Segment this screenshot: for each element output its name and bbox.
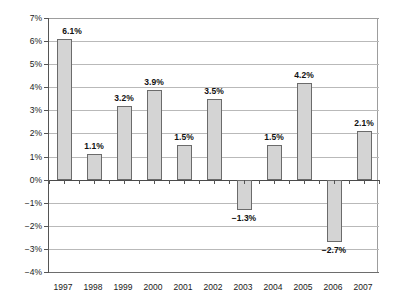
- x-axis-label-1999: 1999: [114, 282, 133, 292]
- bar[interactable]: [267, 145, 282, 180]
- x-axis-tick: [124, 180, 125, 184]
- y-axis-tick: [44, 41, 49, 42]
- y-axis-label: −1%: [25, 198, 42, 208]
- x-axis-label-2001: 2001: [174, 282, 193, 292]
- x-axis-tick: [274, 180, 275, 184]
- bar[interactable]: [237, 180, 252, 210]
- y-axis-tick: [44, 157, 49, 158]
- gridline-7%: [49, 18, 379, 19]
- x-axis-tick: [64, 180, 65, 184]
- bar-value-label: 1.1%: [84, 141, 103, 151]
- bar[interactable]: [297, 83, 312, 180]
- bar-value-label: 2.1%: [354, 118, 373, 128]
- bar-value-label: 1.5%: [264, 132, 283, 142]
- y-axis-tick: [44, 18, 49, 19]
- x-axis-tick: [364, 180, 365, 184]
- x-axis-label-2007: 2007: [354, 282, 373, 292]
- x-axis-label-2004: 2004: [264, 282, 283, 292]
- bar[interactable]: [327, 180, 342, 242]
- bar[interactable]: [87, 154, 102, 179]
- x-axis-label-2005: 2005: [294, 282, 313, 292]
- x-axis-tick: [169, 180, 170, 184]
- x-axis-label-1997: 1997: [54, 282, 73, 292]
- x-axis-tick: [259, 180, 260, 184]
- gridline-5%: [49, 64, 379, 65]
- bar[interactable]: [117, 106, 132, 180]
- x-axis-tick: [379, 180, 380, 184]
- x-axis-tick: [154, 180, 155, 184]
- x-axis-tick: [214, 180, 215, 184]
- y-axis-tick: [44, 203, 49, 204]
- bar[interactable]: [147, 90, 162, 180]
- x-axis-tick: [229, 180, 230, 184]
- bar-value-label: 4.2%: [294, 70, 313, 80]
- bar-value-label: 6.1%: [62, 26, 81, 36]
- bar-value-label: −2.7%: [322, 245, 346, 255]
- x-axis-tick: [184, 180, 185, 184]
- x-axis-tick: [289, 180, 290, 184]
- x-axis-tick: [304, 180, 305, 184]
- bar[interactable]: [177, 145, 192, 180]
- x-axis-tick: [79, 180, 80, 184]
- gridline-6%: [49, 41, 379, 42]
- x-axis-label-2002: 2002: [204, 282, 223, 292]
- x-axis-label-1998: 1998: [84, 282, 103, 292]
- bar-value-label: 3.2%: [114, 93, 133, 103]
- bar-chart: 7%6%5%4%3%2%1%0%−1%−2%−3%−4%6.1%1.1%3.2%…: [0, 0, 396, 305]
- y-axis-label: 5%: [30, 59, 42, 69]
- x-axis-tick: [349, 180, 350, 184]
- y-axis-label: 0%: [30, 175, 42, 185]
- y-axis-tick: [44, 226, 49, 227]
- gridline-minus4%: [49, 272, 379, 273]
- y-axis-tick: [44, 64, 49, 65]
- x-axis-tick: [334, 180, 335, 184]
- x-axis-tick: [139, 180, 140, 184]
- y-axis-tick: [44, 272, 49, 273]
- bar-value-label: 3.9%: [144, 77, 163, 87]
- y-axis-label: 2%: [30, 128, 42, 138]
- x-axis-label-2000: 2000: [144, 282, 163, 292]
- bar-value-label: 1.5%: [174, 132, 193, 142]
- y-axis-tick: [44, 110, 49, 111]
- y-axis-label: 1%: [30, 152, 42, 162]
- y-axis-label: −2%: [25, 221, 42, 231]
- x-axis-tick: [319, 180, 320, 184]
- bar[interactable]: [207, 99, 222, 180]
- y-axis-label: 4%: [30, 82, 42, 92]
- x-axis-tick: [244, 180, 245, 184]
- y-axis-label: −4%: [25, 267, 42, 277]
- y-axis-label: 6%: [30, 36, 42, 46]
- y-axis-tick: [44, 87, 49, 88]
- y-axis-label: −3%: [25, 244, 42, 254]
- x-axis-tick: [109, 180, 110, 184]
- x-axis-tick: [94, 180, 95, 184]
- x-axis-label-2006: 2006: [324, 282, 343, 292]
- bar-value-label: 3.5%: [204, 86, 223, 96]
- plot-right-edge: [377, 18, 378, 272]
- x-axis-label-2003: 2003: [234, 282, 253, 292]
- bar[interactable]: [357, 131, 372, 179]
- x-axis-tick: [49, 180, 50, 184]
- x-axis-tick: [199, 180, 200, 184]
- y-axis-tick: [44, 249, 49, 250]
- y-axis-tick: [44, 133, 49, 134]
- bar[interactable]: [57, 39, 72, 180]
- y-axis-label: 3%: [30, 105, 42, 115]
- plot-area: 7%6%5%4%3%2%1%0%−1%−2%−3%−4%6.1%1.1%3.2%…: [48, 18, 378, 272]
- y-axis-label: 7%: [30, 13, 42, 23]
- bar-value-label: −1.3%: [232, 213, 256, 223]
